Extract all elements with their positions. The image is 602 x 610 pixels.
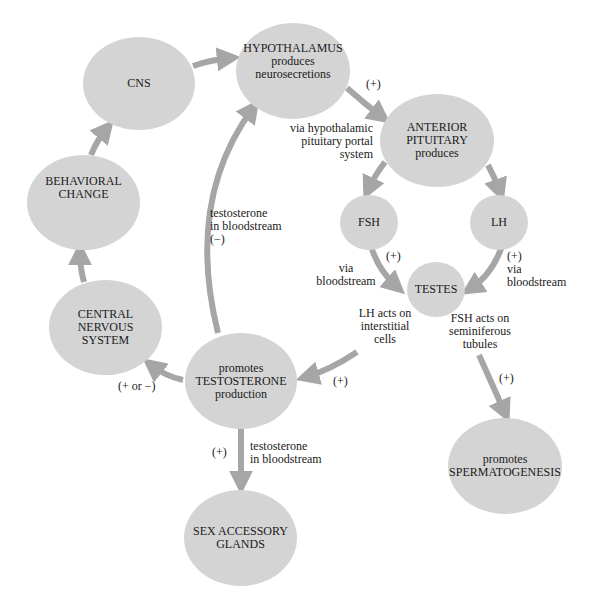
arrow-pituitary-to-lh: [488, 165, 500, 192]
label-to-spermatogenesis-sign: (+): [499, 372, 514, 385]
arrow-pituitary-to-fsh: [368, 162, 385, 190]
label-fsh-acts: FSH acts on seminiferous tubules: [440, 312, 520, 351]
label-testes-to-testosterone-sign: (+): [333, 375, 348, 388]
arrow-testes-to-testosterone: [306, 352, 357, 377]
label-portal-system: via hypothalamic pituitary portal system: [283, 122, 373, 161]
label-lh-via: (+) via bloodstream: [507, 250, 566, 289]
arrow-testosterone-to-cns: [151, 365, 183, 380]
node-central-nervous-system-label: CENTRAL NERVOUS SYSTEM: [49, 308, 162, 347]
label-to-cns-sign: (+ or −): [118, 380, 156, 393]
label-fsh-via: via bloodstream: [308, 262, 384, 288]
node-sex-accessory-glands-label: SEX ACCESSORY GLANDS: [193, 525, 288, 551]
node-testosterone-production-label: promotes TESTOSTERONE production: [195, 362, 286, 401]
arrow-hypothalamus-to-pituitary: [347, 88, 382, 117]
arrow-cns-to-behavioral: [80, 252, 84, 282]
node-sex-accessory-glands: SEX ACCESSORY GLANDS: [184, 490, 297, 586]
node-lh: LH: [470, 195, 528, 250]
node-fsh: FSH: [340, 195, 398, 250]
node-lh-label: LH: [491, 216, 507, 229]
node-spermatogenesis: promotes SPERMATOGENESIS: [448, 418, 562, 514]
node-central-nervous-system: CENTRAL NERVOUS SYSTEM: [49, 280, 162, 375]
arrow-behavioral-to-cns: [91, 128, 107, 155]
label-lh-acts: LH acts on interstitial cells: [350, 307, 420, 346]
label-feedback-testosterone: testosterone in bloodstream (−): [210, 207, 282, 246]
node-cns: CNS: [83, 37, 195, 130]
label-hypo-to-pit-sign: (+): [366, 78, 381, 91]
node-anterior-pituitary-label: ANTERIOR PITUITARY produces: [406, 121, 468, 160]
arrow-lh-to-testes: [470, 246, 502, 289]
label-to-glands-sign: (+): [212, 446, 227, 459]
label-fsh-sign: (+): [386, 250, 401, 263]
node-anterior-pituitary: ANTERIOR PITUITARY produces: [380, 94, 494, 187]
arrow-cns-to-hypothalamus: [193, 58, 230, 66]
node-fsh-label: FSH: [358, 216, 380, 229]
node-cns-label: CNS: [127, 77, 150, 90]
node-testosterone-production: promotes TESTOSTERONE production: [185, 333, 297, 429]
node-spermatogenesis-label: promotes SPERMATOGENESIS: [449, 453, 561, 479]
node-hypothalamus: HYPOTHALAMUS produces neurosecretions: [236, 23, 350, 119]
node-testes-label: TESTES: [415, 283, 458, 296]
node-behavioral-change-label: BEHAVIORAL CHANGE: [45, 175, 121, 201]
label-to-glands-text: testosterone in bloodstream: [250, 440, 322, 466]
node-behavioral-change: BEHAVIORAL CHANGE: [27, 155, 140, 250]
node-hypothalamus-label: HYPOTHALAMUS produces neurosecretions: [243, 42, 342, 81]
